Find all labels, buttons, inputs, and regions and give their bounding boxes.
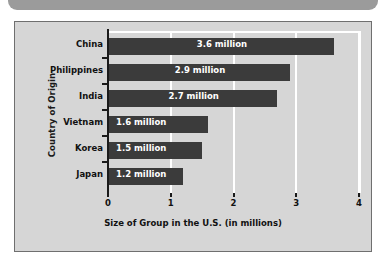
gridline-2 xyxy=(233,33,235,193)
x-axis-title: Size of Group in the U.S. (in millions) xyxy=(15,218,371,228)
category-label-japan: Japan xyxy=(17,166,103,183)
category-label-philippines: Philippines xyxy=(17,62,103,79)
chart-panel: Country of Origin ChinaPhilippinesIndiaV… xyxy=(14,21,372,252)
x-tick-0 xyxy=(107,193,109,197)
category-label-column: ChinaPhilippinesIndiaVietnamKoreaJapan xyxy=(15,22,103,251)
x-tick-label-2: 2 xyxy=(222,198,246,208)
category-label-china: China xyxy=(17,36,103,53)
x-tick-label-3: 3 xyxy=(284,198,308,208)
x-tick-2 xyxy=(233,193,235,197)
x-tick-label-0: 0 xyxy=(96,198,120,208)
y-tick-mark xyxy=(102,161,108,163)
category-label-india: India xyxy=(17,88,103,105)
bar-value-label: 3.6 million xyxy=(116,36,328,53)
bar-value-label: 1.5 million xyxy=(116,140,196,157)
bar-value-label: 1.2 million xyxy=(116,166,177,183)
category-label-korea: Korea xyxy=(17,140,103,157)
category-label-vietnam: Vietnam xyxy=(17,114,103,131)
cut-off-top-banner xyxy=(8,0,378,10)
y-tick-mark xyxy=(102,57,108,59)
x-tick-label-1: 1 xyxy=(159,198,183,208)
x-tick-label-4: 4 xyxy=(347,198,371,208)
x-tick-3 xyxy=(295,193,297,197)
x-tick-4 xyxy=(358,193,360,197)
x-tick-1 xyxy=(170,193,172,197)
bar-value-label: 2.9 million xyxy=(116,62,284,79)
y-tick-mark xyxy=(102,135,108,137)
y-tick-mark xyxy=(102,83,108,85)
bar-value-label: 1.6 million xyxy=(116,114,202,131)
y-tick-mark xyxy=(102,109,108,111)
gridline-4 xyxy=(358,33,360,193)
bar-value-label: 2.7 million xyxy=(116,88,271,105)
y-axis-line xyxy=(107,29,109,195)
gridline-3 xyxy=(295,33,297,193)
